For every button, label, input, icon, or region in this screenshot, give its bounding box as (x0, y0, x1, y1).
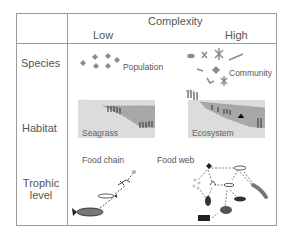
food-web-organisms (193, 163, 267, 221)
trophic-diagrams (0, 0, 292, 242)
food-chain-diagram (72, 170, 136, 216)
